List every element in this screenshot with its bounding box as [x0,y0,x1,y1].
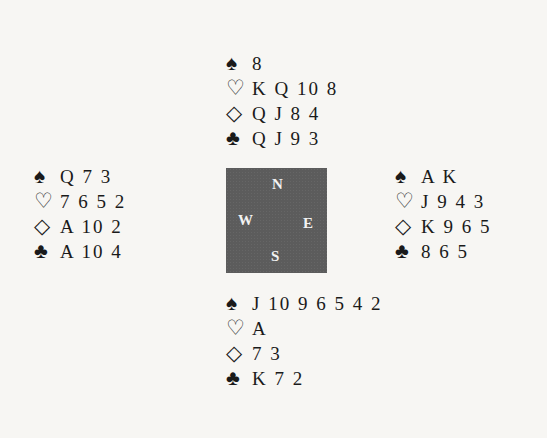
north-clubs-row: ♣ Q J 9 3 [226,126,338,151]
west-diamonds-row: ◇ A 10 2 [34,214,126,239]
east-hearts: J 9 4 3 [421,189,485,214]
club-icon: ♣ [226,126,252,151]
east-hand: ♠ A K ♡ J 9 4 3 ◇ K 9 6 5 ♣ 8 6 5 [395,164,491,264]
south-clubs-row: ♣ K 7 2 [226,366,382,391]
west-clubs-row: ♣ A 10 4 [34,239,126,264]
diamond-icon: ◇ [226,101,252,126]
north-hand: ♠ 8 ♡ K Q 10 8 ◇ Q J 8 4 ♣ Q J 9 3 [226,51,338,151]
west-hand: ♠ Q 7 3 ♡ 7 6 5 2 ◇ A 10 2 ♣ A 10 4 [34,164,126,264]
north-hearts: K Q 10 8 [252,76,338,101]
south-hand: ♠ J 10 9 6 5 4 2 ♡ A ◇ 7 3 ♣ K 7 2 [226,291,382,391]
south-spades: J 10 9 6 5 4 2 [252,291,382,316]
compass-east-label: E [303,215,313,232]
east-diamonds-row: ◇ K 9 6 5 [395,214,491,239]
south-clubs: K 7 2 [252,366,304,391]
diamond-icon: ◇ [395,214,421,239]
heart-icon: ♡ [226,76,252,101]
spade-icon: ♠ [226,51,252,76]
spade-icon: ♠ [395,164,421,189]
east-spades-row: ♠ A K [395,164,491,189]
west-hearts: 7 6 5 2 [60,189,126,214]
east-clubs-row: ♣ 8 6 5 [395,239,491,264]
heart-icon: ♡ [34,189,60,214]
club-icon: ♣ [226,366,252,391]
club-icon: ♣ [395,239,421,264]
north-spades-row: ♠ 8 [226,51,338,76]
club-icon: ♣ [34,239,60,264]
north-diamonds-row: ◇ Q J 8 4 [226,101,338,126]
compass-south-label: S [271,248,279,265]
compass-north-label: N [272,176,283,193]
south-hearts: A [252,316,268,341]
south-diamonds: 7 3 [252,341,282,366]
south-diamonds-row: ◇ 7 3 [226,341,382,366]
west-diamonds: A 10 2 [60,214,123,239]
spade-icon: ♠ [34,164,60,189]
east-hearts-row: ♡ J 9 4 3 [395,189,491,214]
east-diamonds: K 9 6 5 [421,214,491,239]
west-hearts-row: ♡ 7 6 5 2 [34,189,126,214]
south-spades-row: ♠ J 10 9 6 5 4 2 [226,291,382,316]
north-clubs: Q J 9 3 [252,126,320,151]
compass-west-label: W [238,212,253,229]
east-spades: A K [421,164,458,189]
spade-icon: ♠ [226,291,252,316]
west-spades: Q 7 3 [60,164,112,189]
heart-icon: ♡ [395,189,421,214]
south-hearts-row: ♡ A [226,316,382,341]
west-clubs: A 10 4 [60,239,123,264]
north-spades: 8 [252,51,264,76]
diamond-icon: ◇ [226,341,252,366]
west-spades-row: ♠ Q 7 3 [34,164,126,189]
north-hearts-row: ♡ K Q 10 8 [226,76,338,101]
east-clubs: 8 6 5 [421,239,469,264]
north-diamonds: Q J 8 4 [252,101,320,126]
compass-box: N W E S [226,168,327,273]
heart-icon: ♡ [226,316,252,341]
diamond-icon: ◇ [34,214,60,239]
